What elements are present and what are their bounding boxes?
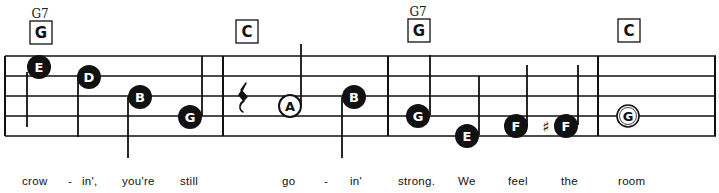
lyric-syllable: go bbox=[282, 175, 295, 187]
lyric-syllable: crow bbox=[22, 175, 48, 187]
lyric-syllable: in', bbox=[82, 175, 98, 187]
chord-box-label: G bbox=[413, 22, 425, 40]
lyric-syllable: in' bbox=[350, 175, 362, 187]
note-letter: F bbox=[512, 119, 521, 134]
note-letter: E bbox=[463, 129, 472, 144]
quarter-rest-icon bbox=[239, 83, 247, 112]
chord-name: G7 bbox=[409, 5, 426, 19]
lyric-syllable: We bbox=[458, 175, 476, 187]
lyric-syllable: - bbox=[324, 175, 328, 187]
note-letter: G bbox=[413, 109, 424, 124]
chord-symbol: G7 G bbox=[30, 7, 52, 44]
chord-symbol: C bbox=[236, 20, 258, 43]
note: G bbox=[406, 104, 430, 128]
sheet-music: G7 G C G7 G C E bbox=[0, 0, 719, 193]
note: E bbox=[455, 124, 479, 148]
note-letter: D bbox=[84, 70, 95, 85]
lyric-syllable: - bbox=[68, 175, 72, 187]
note: D bbox=[77, 65, 101, 89]
chord-symbol: G7 G bbox=[408, 5, 430, 42]
sharp-icon: ♯ bbox=[542, 118, 549, 136]
lyric-syllable: still bbox=[180, 175, 198, 187]
note-letter: F bbox=[562, 119, 571, 134]
note: F bbox=[504, 114, 528, 138]
chord-symbol: C bbox=[618, 19, 640, 42]
note: E bbox=[27, 55, 51, 79]
note: G bbox=[178, 105, 202, 129]
chord-name: G7 bbox=[31, 7, 48, 21]
note-letter: A bbox=[285, 99, 295, 114]
note: B bbox=[342, 85, 366, 109]
note-letter: E bbox=[35, 60, 44, 75]
lyric-syllable: strong. bbox=[398, 175, 435, 187]
lyric-syllable: you're bbox=[122, 175, 155, 187]
note-letter: G bbox=[623, 109, 634, 124]
note-letter: B bbox=[349, 90, 359, 105]
note: B bbox=[128, 85, 152, 109]
note-letter: G bbox=[185, 110, 196, 125]
chord-box-label: C bbox=[623, 22, 634, 40]
lyric-syllable: room bbox=[618, 175, 645, 187]
note: G bbox=[617, 105, 639, 127]
chord-box-label: C bbox=[241, 23, 252, 41]
chord-box-label: G bbox=[35, 24, 47, 42]
note: F bbox=[554, 114, 578, 138]
note: A bbox=[279, 95, 301, 117]
lyrics: crow - in', you're still go - in' strong… bbox=[22, 175, 645, 187]
lyric-syllable: feel bbox=[508, 175, 528, 187]
lyric-syllable: the bbox=[561, 175, 578, 187]
note-letter: B bbox=[135, 90, 145, 105]
